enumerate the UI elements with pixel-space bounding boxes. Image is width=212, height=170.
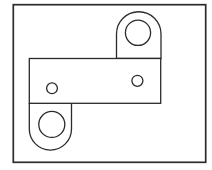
bottom-lobe-hole <box>39 111 65 137</box>
drawing-canvas <box>0 0 212 170</box>
top-lobe-hole <box>125 20 150 45</box>
plate-hole-left <box>47 83 58 94</box>
plate-hole-right <box>132 75 143 86</box>
drawing-svg <box>0 0 212 170</box>
